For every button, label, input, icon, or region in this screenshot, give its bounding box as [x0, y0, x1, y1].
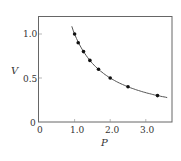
x-axis-label: P [100, 137, 108, 148]
y-tick-0: 0 [30, 118, 36, 128]
x-tick-2.0: 2.0 [105, 125, 120, 135]
data-point [156, 94, 160, 98]
data-point [88, 59, 92, 63]
x-tick-0: 0 [37, 125, 43, 135]
tick-marks [39, 34, 146, 122]
data-point [126, 85, 130, 89]
data-points [73, 32, 160, 97]
fit-curve [72, 26, 167, 97]
chart: 1.0 0.5 0 0 1.0 2.0 3.0 V P [0, 0, 181, 161]
x-tick-3.0: 3.0 [140, 125, 155, 135]
plot-frame [39, 17, 173, 123]
data-point [73, 32, 77, 36]
y-tick-1.0: 1.0 [23, 29, 38, 39]
y-tick-0.5: 0.5 [23, 74, 38, 84]
x-tick-1.0: 1.0 [70, 125, 85, 135]
data-point [97, 67, 101, 71]
data-point [76, 41, 80, 45]
data-point [108, 76, 112, 80]
y-axis-label: V [11, 65, 20, 76]
data-point [82, 50, 86, 54]
